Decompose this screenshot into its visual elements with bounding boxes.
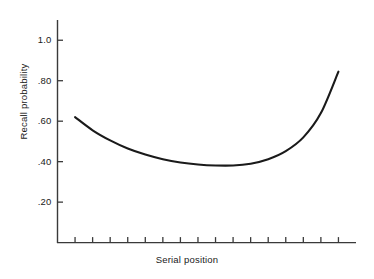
x-tick-marks — [75, 237, 338, 243]
y-axis-title: Recall probability — [18, 27, 29, 177]
serial-position-curve-figure: 1.0.80.60.40.20 Recall probability Seria… — [0, 0, 374, 279]
recall-probability-curve — [75, 72, 338, 166]
y-tick-marks — [58, 40, 64, 202]
y-tick-label: .20 — [18, 197, 52, 207]
x-axis-title: Serial position — [0, 254, 374, 265]
chart-canvas — [0, 0, 374, 279]
